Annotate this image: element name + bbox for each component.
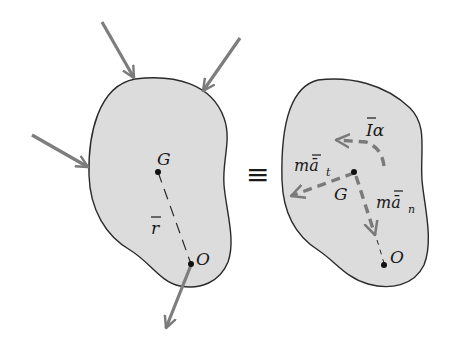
diagram-canvas: G O r ≡ G O Iα mā t mā n bbox=[0, 0, 449, 344]
point-G-label: G bbox=[157, 149, 171, 169]
equivalence-symbol: ≡ bbox=[246, 158, 269, 191]
point-G-label-kinetic: G bbox=[334, 184, 348, 204]
tangential-subscript: t bbox=[326, 166, 331, 179]
point-O-label-kinetic: O bbox=[390, 247, 404, 267]
rigid-body-shape-kinetic bbox=[282, 79, 429, 287]
force-arrow-top-right bbox=[203, 38, 240, 91]
point-O-label: O bbox=[196, 249, 210, 269]
force-arrow-top-left bbox=[102, 22, 134, 78]
normal-subscript: n bbox=[408, 203, 415, 216]
right-kinetic-diagram: G O Iα mā t mā n bbox=[282, 79, 429, 287]
point-O-dot-kinetic bbox=[381, 262, 387, 268]
point-G-dot-kinetic bbox=[351, 169, 357, 175]
left-free-body: G O r bbox=[32, 22, 240, 328]
point-G-dot bbox=[155, 169, 161, 175]
point-O-dot bbox=[188, 261, 194, 267]
tangential-label: mā bbox=[294, 156, 319, 175]
r-bar-label: r bbox=[151, 218, 160, 238]
normal-label: mā bbox=[376, 193, 401, 212]
moment-label: Iα bbox=[365, 120, 385, 140]
force-arrow-left bbox=[32, 135, 88, 167]
